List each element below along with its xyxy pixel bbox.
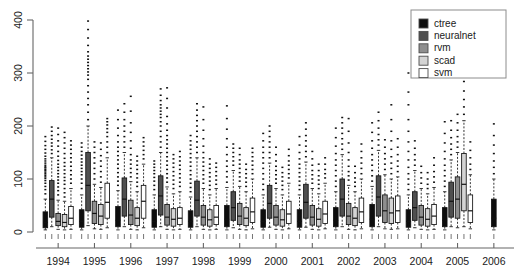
box-2000-rvm bbox=[274, 146, 279, 229]
box-rect bbox=[359, 198, 364, 222]
box-rect bbox=[346, 203, 351, 224]
outlier-point bbox=[81, 168, 83, 170]
box-rect bbox=[406, 210, 411, 227]
outlier-point bbox=[44, 162, 46, 164]
outlier-point bbox=[202, 157, 204, 159]
outlier-point bbox=[390, 173, 392, 175]
outlier-point bbox=[444, 186, 446, 188]
outlier-point bbox=[190, 170, 192, 172]
outlier-point bbox=[179, 169, 181, 171]
outlier-point bbox=[262, 157, 264, 159]
outlier-point bbox=[305, 145, 307, 147]
box-2005-neuralnet bbox=[449, 120, 454, 227]
box-2000-neuralnet bbox=[267, 125, 272, 227]
outlier-point bbox=[209, 172, 211, 174]
outlier-point bbox=[493, 123, 495, 125]
x-tick-label-2001: 2001 bbox=[301, 255, 325, 267]
outlier-point bbox=[444, 175, 446, 177]
box-1999-scad bbox=[244, 163, 249, 229]
x-tick-label-2003: 2003 bbox=[373, 255, 397, 267]
outlier-point bbox=[239, 148, 241, 150]
outlier-point bbox=[160, 100, 162, 102]
outlier-point bbox=[232, 148, 234, 150]
outlier-point bbox=[299, 158, 301, 160]
outlier-point bbox=[70, 153, 72, 155]
box-2001-neuralnet bbox=[304, 122, 309, 227]
outlier-point bbox=[215, 179, 217, 181]
box-2004-rvm bbox=[419, 166, 424, 230]
outlier-point bbox=[335, 175, 337, 177]
outlier-point bbox=[311, 164, 313, 166]
outlier-point bbox=[414, 164, 416, 166]
outlier-point bbox=[172, 158, 174, 160]
outlier-point bbox=[341, 117, 343, 119]
outlier-point bbox=[57, 127, 59, 128]
box-1996-neuralnet bbox=[122, 103, 127, 227]
outlier-point bbox=[64, 177, 66, 179]
outlier-point bbox=[335, 137, 337, 139]
box-rect bbox=[323, 201, 328, 223]
outlier-point bbox=[239, 176, 241, 178]
outlier-point bbox=[245, 177, 247, 179]
outlier-point bbox=[106, 118, 108, 120]
outlier-point bbox=[450, 137, 452, 139]
outlier-point bbox=[117, 119, 119, 121]
box-rect bbox=[389, 198, 394, 223]
outlier-point bbox=[106, 141, 108, 143]
box-2003-neuralnet bbox=[376, 111, 381, 226]
box-2004-svm bbox=[432, 157, 437, 229]
outlier-point bbox=[288, 149, 290, 151]
outlier-point bbox=[348, 142, 350, 144]
outlier-point bbox=[166, 87, 168, 89]
box-1998-ctree bbox=[188, 135, 193, 230]
outlier-point bbox=[190, 135, 192, 137]
outlier-point bbox=[371, 132, 373, 134]
outlier-point bbox=[281, 189, 283, 191]
outlier-point bbox=[160, 146, 162, 148]
outlier-point bbox=[444, 151, 446, 153]
outlier-point bbox=[190, 140, 192, 142]
box-rect bbox=[442, 208, 447, 227]
outlier-point bbox=[196, 131, 198, 133]
outlier-point bbox=[70, 140, 72, 142]
box-1997-neuralnet bbox=[158, 88, 163, 227]
outlier-point bbox=[153, 167, 155, 169]
outlier-point bbox=[106, 128, 108, 129]
legend-label-neuralnet: neuralnet bbox=[434, 30, 476, 41]
outlier-point bbox=[160, 114, 162, 116]
outlier-point bbox=[64, 158, 66, 160]
box-rect bbox=[383, 195, 388, 223]
y-tick-label-200: 200 bbox=[12, 117, 24, 135]
outlier-point bbox=[87, 91, 89, 93]
outlier-point bbox=[397, 166, 399, 168]
outlier-point bbox=[407, 91, 409, 93]
boxplot-chart: 0100200300400 19941995199619971998199920… bbox=[0, 0, 520, 274]
outlier-point bbox=[305, 151, 307, 153]
outlier-point bbox=[299, 180, 301, 182]
outlier-point bbox=[44, 175, 46, 177]
outlier-point bbox=[397, 146, 399, 148]
outlier-point bbox=[251, 164, 253, 166]
outlier-point bbox=[196, 146, 198, 148]
outlier-point bbox=[348, 159, 350, 161]
box-rect bbox=[195, 181, 200, 216]
outlier-point bbox=[44, 164, 46, 166]
outlier-point bbox=[348, 175, 350, 177]
outlier-point bbox=[179, 177, 181, 179]
outlier-point bbox=[117, 141, 119, 143]
outlier-point bbox=[106, 124, 108, 126]
box-1997-ctree bbox=[152, 160, 157, 230]
outlier-point bbox=[57, 194, 59, 196]
outlier-point bbox=[390, 149, 392, 151]
outlier-point bbox=[269, 125, 271, 127]
outlier-point bbox=[493, 167, 495, 169]
outlier-point bbox=[318, 163, 320, 165]
outlier-point bbox=[93, 168, 95, 170]
outlier-point bbox=[117, 163, 119, 165]
outlier-point bbox=[463, 114, 465, 116]
box-1999-neuralnet bbox=[231, 143, 236, 227]
box-1999-ctree bbox=[225, 105, 230, 230]
outlier-point bbox=[196, 109, 198, 111]
x-tick-label-1994: 1994 bbox=[46, 255, 70, 267]
box-rect bbox=[376, 176, 381, 216]
